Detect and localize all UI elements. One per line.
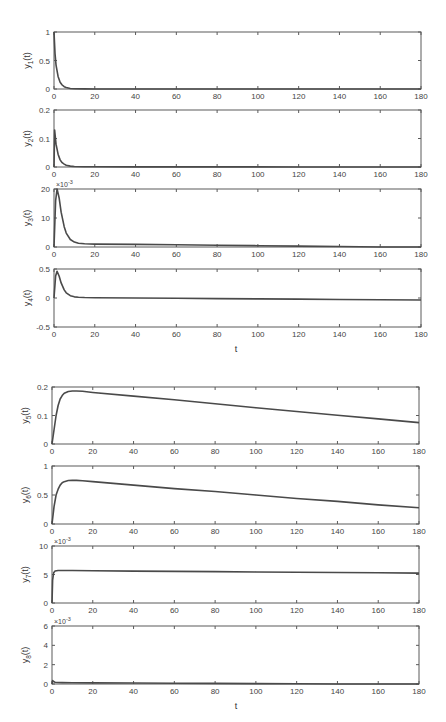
y-axis-label: y4(t) bbox=[22, 290, 34, 307]
axes-box bbox=[54, 189, 421, 247]
x-tick-label: 100 bbox=[251, 250, 265, 259]
x-axis-label: t bbox=[235, 701, 238, 711]
y-tick-label: 0 bbox=[46, 85, 51, 94]
figure-canvas: 02040608010012014016018000.51y1(t)020406… bbox=[0, 0, 446, 722]
subplot-y7: 0204060801001201401601800510×10-3y7(t) bbox=[20, 536, 426, 615]
subplot-y3: 02040608010012014016018001020×10-3y3(t) bbox=[22, 179, 428, 259]
subplot-y4: 020406080100120140160180-0.500.5y4(t) bbox=[22, 265, 428, 339]
x-tick-label: 180 bbox=[414, 250, 428, 259]
x-tick-label: 140 bbox=[331, 527, 345, 536]
subplot-y1: 02040608010012014016018000.51y1(t) bbox=[22, 28, 428, 101]
x-tick-label: 180 bbox=[414, 92, 428, 101]
y-tick-label: 0.5 bbox=[39, 265, 51, 274]
x-tick-label: 0 bbox=[50, 527, 55, 536]
x-tick-label: 120 bbox=[292, 92, 306, 101]
x-tick-label: 120 bbox=[290, 687, 304, 696]
x-tick-label: 60 bbox=[170, 447, 179, 456]
x-tick-label: 180 bbox=[414, 330, 428, 339]
x-tick-label: 100 bbox=[249, 687, 263, 696]
x-tick-label: 160 bbox=[374, 92, 388, 101]
y-tick-label: 6 bbox=[44, 622, 49, 631]
y-tick-label: 10 bbox=[39, 542, 48, 551]
x-tick-label: 180 bbox=[412, 687, 426, 696]
x-tick-label: 20 bbox=[90, 170, 99, 179]
x-tick-label: 80 bbox=[211, 527, 220, 536]
x-tick-label: 60 bbox=[170, 527, 179, 536]
x-tick-label: 160 bbox=[374, 330, 388, 339]
x-tick-label: 60 bbox=[172, 330, 181, 339]
x-tick-label: 60 bbox=[170, 606, 179, 615]
x-tick-label: 0 bbox=[52, 92, 57, 101]
x-tick-label: 40 bbox=[129, 687, 138, 696]
x-tick-label: 140 bbox=[331, 687, 345, 696]
x-tick-label: 160 bbox=[372, 527, 386, 536]
y-tick-label: 10 bbox=[41, 214, 50, 223]
x-tick-label: 0 bbox=[50, 447, 55, 456]
y-tick-label: 0 bbox=[44, 520, 49, 529]
y-tick-label: 5 bbox=[44, 571, 49, 580]
y-tick-label: 4 bbox=[44, 641, 49, 650]
y-tick-label: 20 bbox=[41, 185, 50, 194]
x-tick-label: 40 bbox=[131, 250, 140, 259]
x-tick-label: 140 bbox=[333, 170, 347, 179]
x-tick-label: 180 bbox=[412, 606, 426, 615]
x-tick-label: 40 bbox=[129, 447, 138, 456]
x-tick-label: 0 bbox=[50, 606, 55, 615]
axes-box bbox=[52, 626, 419, 684]
x-tick-label: 140 bbox=[333, 250, 347, 259]
subplot-y2: 02040608010012014016018000.10.2y2(t) bbox=[22, 106, 428, 179]
y-tick-label: 0.1 bbox=[37, 412, 49, 421]
x-tick-label: 140 bbox=[333, 92, 347, 101]
y-exponent-label: ×10-3 bbox=[54, 536, 71, 545]
x-tick-label: 20 bbox=[90, 250, 99, 259]
x-tick-label: 20 bbox=[88, 447, 97, 456]
axes-box bbox=[54, 110, 421, 167]
y-tick-label: 0.1 bbox=[39, 135, 51, 144]
x-tick-label: 80 bbox=[211, 606, 220, 615]
y-axis-label: y1(t) bbox=[22, 52, 34, 69]
y-axis-label: y5(t) bbox=[20, 407, 32, 424]
x-tick-label: 180 bbox=[412, 527, 426, 536]
x-tick-label: 0 bbox=[52, 330, 57, 339]
x-tick-label: 40 bbox=[129, 527, 138, 536]
x-tick-label: 80 bbox=[213, 170, 222, 179]
y-axis-label: y6(t) bbox=[20, 487, 32, 504]
x-tick-label: 120 bbox=[290, 447, 304, 456]
x-tick-label: 100 bbox=[249, 447, 263, 456]
x-tick-label: 160 bbox=[372, 687, 386, 696]
x-tick-label: 100 bbox=[251, 92, 265, 101]
x-tick-label: 0 bbox=[50, 687, 55, 696]
y-axis-label: y2(t) bbox=[22, 130, 34, 147]
y-tick-label: -0.5 bbox=[36, 323, 50, 332]
x-tick-label: 60 bbox=[170, 687, 179, 696]
x-tick-label: 140 bbox=[331, 447, 345, 456]
x-tick-label: 80 bbox=[213, 250, 222, 259]
x-tick-label: 100 bbox=[251, 170, 265, 179]
x-axis-label: t bbox=[235, 344, 238, 354]
x-tick-label: 20 bbox=[90, 92, 99, 101]
x-tick-label: 120 bbox=[292, 170, 306, 179]
y-tick-label: 1 bbox=[46, 28, 51, 37]
y-tick-label: 0 bbox=[44, 680, 49, 689]
x-tick-label: 100 bbox=[249, 606, 263, 615]
x-tick-label: 40 bbox=[129, 606, 138, 615]
x-tick-label: 20 bbox=[88, 687, 97, 696]
y-tick-label: 0 bbox=[44, 599, 49, 608]
x-tick-label: 40 bbox=[131, 330, 140, 339]
x-tick-label: 20 bbox=[88, 606, 97, 615]
y-tick-label: 0.5 bbox=[39, 57, 51, 66]
y-tick-label: 0 bbox=[46, 294, 51, 303]
y-tick-label: 1 bbox=[44, 462, 49, 471]
x-tick-label: 120 bbox=[292, 330, 306, 339]
x-tick-label: 160 bbox=[372, 606, 386, 615]
axes-box bbox=[52, 546, 419, 603]
subplot-y8: 0204060801001201401601800246×10-3y8(t) bbox=[20, 616, 426, 696]
x-tick-label: 40 bbox=[131, 170, 140, 179]
x-tick-label: 160 bbox=[374, 170, 388, 179]
x-tick-label: 160 bbox=[372, 447, 386, 456]
axes-box bbox=[52, 466, 419, 524]
y-exponent-label: ×10-3 bbox=[56, 179, 73, 188]
x-tick-label: 60 bbox=[172, 92, 181, 101]
x-tick-label: 120 bbox=[290, 606, 304, 615]
x-tick-label: 0 bbox=[52, 170, 57, 179]
